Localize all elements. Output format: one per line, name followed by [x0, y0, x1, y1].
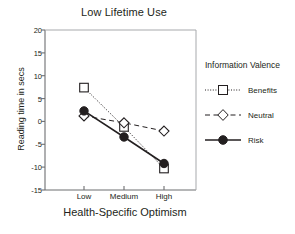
- data-point: [80, 107, 88, 115]
- y-tick-label: 10: [20, 71, 42, 80]
- data-point: [159, 126, 169, 136]
- legend-label-benefits: Benefits: [248, 86, 277, 95]
- y-tick-label: -5: [20, 140, 42, 149]
- legend-swatch-risk: [205, 133, 241, 147]
- legend-item-risk[interactable]: Risk: [205, 131, 295, 149]
- data-point: [119, 118, 129, 128]
- legend-item-benefits[interactable]: Benefits: [205, 81, 295, 99]
- series-line: [84, 88, 164, 169]
- data-point: [160, 159, 168, 167]
- data-point: [80, 83, 89, 92]
- y-tick-label: -10: [20, 163, 42, 172]
- data-point: [120, 133, 128, 141]
- legend: Information Valence Benefits Neutral: [205, 60, 295, 156]
- series-layer: [79, 83, 169, 173]
- y-tick-label: 20: [20, 26, 42, 35]
- legend-swatch-benefits: [205, 83, 241, 97]
- x-axis-ticks: [84, 186, 164, 190]
- legend-label-neutral: Neutral: [248, 111, 274, 120]
- y-axis-tick-labels: 20 15 10 5 0 -5 -10 -15: [18, 0, 42, 234]
- chart-title: Low Lifetime Use: [45, 6, 203, 18]
- data-point: [79, 111, 89, 121]
- axis-frame: [45, 30, 196, 190]
- x-axis-label: Health-Specific Optimism: [30, 206, 220, 218]
- data-point: [120, 123, 129, 132]
- legend-item-neutral[interactable]: Neutral: [205, 106, 295, 124]
- y-tick-label: -15: [20, 186, 42, 195]
- chart-figure: Low Lifetime Use Reading time in secs 20…: [0, 0, 295, 234]
- legend-label-risk: Risk: [248, 136, 264, 145]
- legend-title: Information Valence: [205, 60, 295, 70]
- x-tick-label-high: High: [134, 192, 194, 201]
- series-benefits: [80, 83, 169, 173]
- y-tick-label: 5: [20, 94, 42, 103]
- series-line: [84, 116, 164, 131]
- y-tick-label: 15: [20, 48, 42, 57]
- y-tick-label: 0: [20, 117, 42, 126]
- series-line: [84, 111, 164, 164]
- data-point: [160, 164, 169, 173]
- legend-swatch-neutral: [205, 108, 241, 122]
- series-neutral: [79, 111, 169, 136]
- series-risk: [80, 107, 168, 168]
